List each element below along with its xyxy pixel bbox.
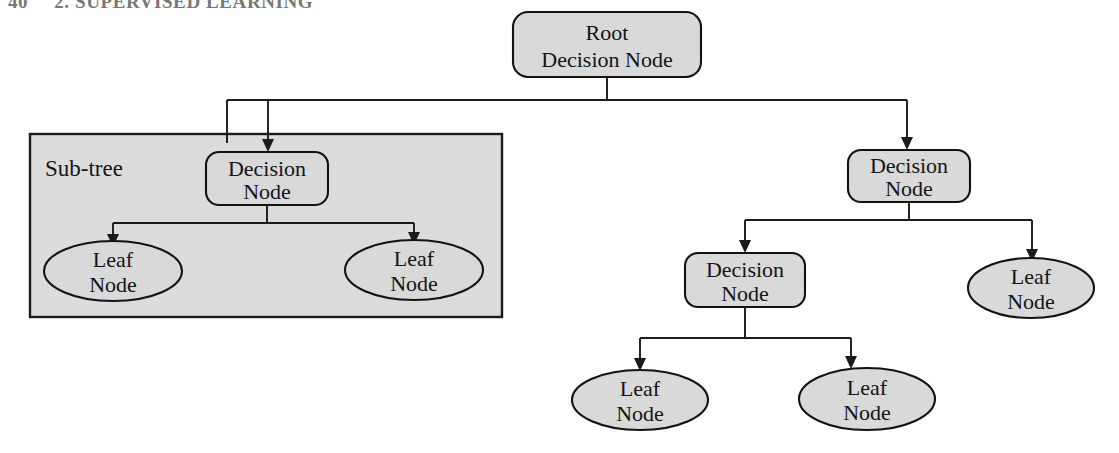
page-folio: 40 xyxy=(8,0,28,12)
node-bottom-leaf-left-line1: Leaf xyxy=(620,376,661,401)
arrow-head-to-bottom-leaf-right xyxy=(845,356,857,369)
node-right-decision-line2: Node xyxy=(885,176,933,201)
arrow-head-to-right-decision xyxy=(901,137,913,150)
node-bottom-leaf-right-line2: Node xyxy=(843,400,891,425)
subtree-group-label: Sub-tree xyxy=(45,156,123,181)
connector-right-decision-to-children xyxy=(745,202,1032,253)
connector-level3-to-bottom-leaves xyxy=(640,307,851,362)
node-right-child-decision-line1: Decision xyxy=(706,257,784,282)
node-subtree-decision-line1: Decision xyxy=(228,156,306,181)
running-head: 402. SUPERVISED LEARNING xyxy=(8,0,313,13)
node-root-decision-line1: Root xyxy=(586,20,629,45)
node-subtree-decision-line2: Node xyxy=(243,179,291,204)
node-subtree-leaf-left-line1: Leaf xyxy=(93,247,134,272)
node-bottom-leaf-right-line1: Leaf xyxy=(847,375,888,400)
node-subtree-leaf-right-line2: Node xyxy=(390,271,438,296)
chapter-running-title: 2. SUPERVISED LEARNING xyxy=(54,0,313,12)
node-root-decision-line2: Decision Node xyxy=(541,47,672,72)
tree-diagram-canvas: Sub-tree Root Decision Node Decision Nod… xyxy=(0,0,1119,453)
node-right-decision-line1: Decision xyxy=(870,153,948,178)
node-right-child-leaf-line1: Leaf xyxy=(1011,264,1052,289)
node-subtree-leaf-right-line1: Leaf xyxy=(394,246,435,271)
node-right-child-decision-line2: Node xyxy=(721,281,769,306)
decision-tree-figure: 402. SUPERVISED LEARNING Sub-tree Root D… xyxy=(0,0,1119,453)
node-subtree-leaf-left-line2: Node xyxy=(89,272,137,297)
arrow-head-to-right-child-decision xyxy=(739,240,751,253)
node-right-child-leaf-line2: Node xyxy=(1007,289,1055,314)
node-bottom-leaf-left-line2: Node xyxy=(616,401,664,426)
